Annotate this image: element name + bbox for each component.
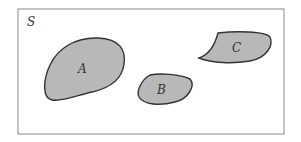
set-b-label: B [156, 83, 166, 97]
universe-label: S [27, 15, 35, 29]
set-a-label: A [77, 62, 87, 76]
venn-diagram: S A B C [0, 0, 301, 142]
set-c-label: C [232, 41, 241, 55]
